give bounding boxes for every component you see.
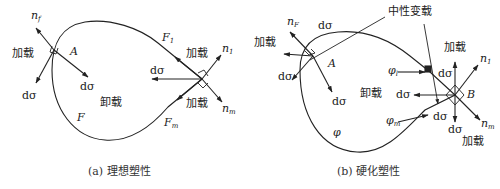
label-dsigma-right-upper-b: dσ: [438, 68, 453, 79]
yield-surface-a: [52, 21, 202, 140]
label-dsigma-inner-b: dσ: [332, 96, 347, 107]
label-dsigma-inner-a: dσ: [80, 81, 95, 92]
label-n-F: nF: [287, 16, 299, 29]
label-loading-left-a: 加载: [12, 48, 34, 59]
label-loading-lower-right-a: 加载: [186, 98, 208, 109]
label-F1: F1: [162, 32, 174, 45]
label-phi: φ: [333, 127, 341, 138]
label-loading-lower-right-b: 加载: [462, 136, 484, 147]
label-dsigma-left-a: dσ: [22, 90, 37, 101]
label-F: F: [77, 112, 85, 123]
label-dsigma-bottom-b: dσ: [448, 124, 463, 135]
label-point-a: A: [70, 46, 78, 57]
label-dsigma-top-b: dσ: [318, 20, 333, 31]
diagram-a: [36, 21, 222, 140]
caption-b: (b) 硬化塑性: [337, 166, 400, 177]
label-point-B: B: [467, 89, 475, 100]
diagram-canvas: [0, 0, 500, 189]
label-phi-m: φm: [386, 115, 400, 128]
label-loading-left-b: 加载: [254, 37, 276, 48]
label-dsigma-right-a: dσ: [150, 65, 165, 76]
label-phi-l: φl: [388, 65, 398, 78]
label-dsigma-left-b: dσ: [278, 71, 293, 82]
caption-a: (a) 理想塑性: [88, 166, 151, 177]
label-n-f: nf: [31, 10, 41, 23]
label-unloading-b: 卸载: [360, 88, 382, 99]
label-unloading-a: 卸载: [100, 97, 122, 108]
label-neutral-loading: 中性变载: [388, 6, 432, 17]
label-loading-upper-right-b: 加载: [444, 42, 466, 53]
label-dsigma-lower-b: dσ: [433, 111, 448, 122]
label-nm-a: nm: [222, 103, 236, 116]
label-dsigma-mid-b: dσ: [396, 89, 411, 100]
label-n1-a: n1: [222, 43, 234, 56]
label-nm-b: nm: [481, 118, 495, 131]
label-point-A-b: A: [328, 58, 336, 69]
label-loading-upper-right-a: 加载: [186, 48, 208, 59]
label-Fm: Fm: [164, 117, 178, 130]
label-n1-b: n1: [480, 53, 492, 66]
